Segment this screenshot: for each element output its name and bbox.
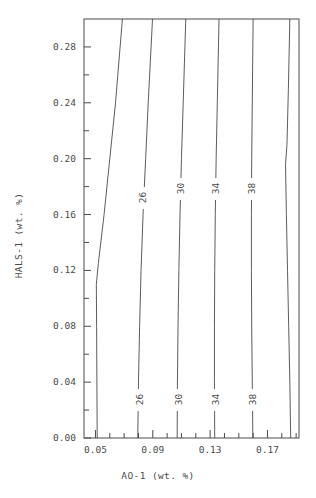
- axis-ticks: [84, 47, 296, 438]
- contour-line-26: [138, 19, 153, 438]
- y-axis-title: HALS-1 (wt. %): [13, 171, 24, 301]
- contour-line-22: [96, 19, 122, 438]
- contour-label-34: 34: [209, 391, 220, 409]
- contour-line-42: [286, 19, 291, 438]
- plot-canvas: [0, 0, 316, 498]
- y-tick-label: 0.12: [30, 264, 76, 275]
- y-tick-label: 0.20: [30, 153, 76, 164]
- x-tick-label: 0.17: [244, 444, 290, 455]
- x-axis-title: AO-1 (wt. %): [0, 470, 316, 481]
- contour-plot-figure: 0.000.040.080.120.160.200.240.28 0.050.0…: [0, 0, 316, 498]
- contour-line-30: [177, 19, 186, 438]
- x-tick-label: 0.05: [72, 444, 118, 455]
- plot-frame: [84, 19, 299, 438]
- contour-label-30: 30: [174, 180, 185, 198]
- contour-label-38: 38: [246, 180, 257, 198]
- y-tick-label: 0.28: [30, 41, 76, 52]
- contour-line-34: [214, 19, 219, 438]
- x-tick-label: 0.09: [130, 444, 176, 455]
- y-tick-label: 0.04: [30, 376, 76, 387]
- y-tick-label: 0.24: [30, 97, 76, 108]
- y-tick-label: 0.00: [30, 432, 76, 443]
- contour-line-38: [251, 19, 253, 438]
- contour-label-26: 26: [137, 188, 148, 206]
- contour-lines: [96, 19, 290, 438]
- x-tick-label: 0.13: [187, 444, 233, 455]
- y-tick-label: 0.16: [30, 209, 76, 220]
- contour-label-38: 38: [247, 391, 258, 409]
- contour-label-30: 30: [172, 391, 183, 409]
- y-tick-label: 0.08: [30, 320, 76, 331]
- axes-frame: [84, 19, 299, 438]
- contour-label-34: 34: [210, 180, 221, 198]
- contour-label-26: 26: [133, 391, 144, 409]
